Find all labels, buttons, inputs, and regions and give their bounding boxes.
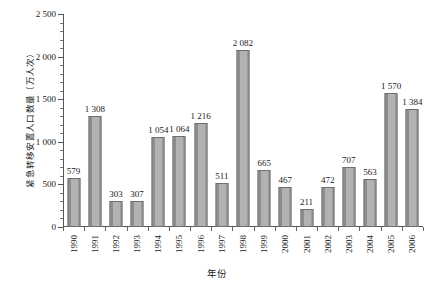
bar-slot: 511	[211, 14, 232, 227]
bar	[300, 209, 313, 227]
x-tick-label: 2000	[280, 235, 290, 253]
x-label-slot: 2002	[317, 228, 338, 264]
x-label-slot: 1990	[63, 228, 84, 264]
bar	[67, 178, 80, 227]
x-tick-label: 1993	[132, 235, 142, 253]
bar-value-label: 665	[257, 158, 271, 168]
x-tick-label: 2002	[323, 235, 333, 253]
y-axis-title: 紧急转移安置人口数量（万人次）	[23, 13, 35, 223]
bar	[364, 179, 377, 227]
bar-slot: 1 384	[402, 14, 423, 227]
bar-value-label: 1 054	[148, 125, 168, 135]
x-label-slot: 2004	[359, 228, 380, 264]
bar-value-label: 1 064	[169, 124, 189, 134]
x-label-slot: 1991	[84, 228, 105, 264]
x-label-slot: 1992	[105, 228, 126, 264]
bar-value-label: 1 216	[191, 111, 211, 121]
x-label-slot: 1995	[169, 228, 190, 264]
x-label-slot: 2001	[296, 228, 317, 264]
x-tick-label: 1994	[153, 235, 163, 253]
bar-value-label: 1 384	[402, 97, 422, 107]
bar	[173, 136, 186, 227]
bar	[215, 183, 228, 227]
x-tick-label: 2004	[365, 235, 375, 253]
bar	[342, 167, 355, 227]
x-label-slot: 2005	[381, 228, 402, 264]
y-tick-label: 1 500	[36, 94, 56, 104]
plot-area: 05001 0001 5002 0002 500 5791 3083033071…	[63, 14, 423, 227]
bar-slot: 707	[338, 14, 359, 227]
bar-slot: 579	[63, 14, 84, 227]
bar-slot: 467	[275, 14, 296, 227]
bar	[321, 187, 334, 227]
x-tick-label: 1997	[217, 235, 227, 253]
bar-value-label: 303	[109, 189, 123, 199]
x-tick-label: 2003	[344, 235, 354, 253]
y-tick-label: 2 000	[36, 52, 56, 62]
bar-value-label: 467	[279, 175, 293, 185]
bar	[88, 116, 101, 227]
x-label-slot: 1999	[254, 228, 275, 264]
bar-value-label: 2 082	[233, 38, 253, 48]
y-tick-label: 500	[43, 179, 57, 189]
bar-value-label: 211	[300, 197, 313, 207]
bar-slot: 563	[359, 14, 380, 227]
bar-slot: 1 570	[381, 14, 402, 227]
bar-slot: 1 064	[169, 14, 190, 227]
bar-slot: 1 216	[190, 14, 211, 227]
bar	[385, 93, 398, 227]
bar	[109, 201, 122, 227]
bar	[194, 123, 207, 227]
bar-value-label: 472	[321, 175, 335, 185]
y-tick-label: 0	[52, 222, 57, 232]
x-label-slot: 1996	[190, 228, 211, 264]
bar-value-label: 579	[67, 166, 81, 176]
bar	[279, 187, 292, 227]
bar-chart: 紧急转移安置人口数量（万人次） 05001 0001 5002 0002 500…	[0, 0, 433, 288]
bar-slot: 307	[127, 14, 148, 227]
x-label-slot: 1994	[148, 228, 169, 264]
x-label-slot: 2006	[402, 228, 423, 264]
x-label-slot: 1998	[232, 228, 253, 264]
bar	[131, 201, 144, 227]
bar-value-label: 1 308	[85, 104, 105, 114]
x-label-slot: 2003	[338, 228, 359, 264]
x-tick-label: 1992	[111, 235, 121, 253]
bar-slot: 211	[296, 14, 317, 227]
bar-value-label: 307	[130, 189, 144, 199]
x-label-slot: 1997	[211, 228, 232, 264]
x-tick-label: 2001	[302, 235, 312, 253]
x-tick-label: 2006	[407, 235, 417, 253]
x-label-slot: 1993	[127, 228, 148, 264]
bar	[152, 137, 165, 227]
bar-slot: 1 054	[148, 14, 169, 227]
bar	[236, 50, 249, 227]
bar-slot: 472	[317, 14, 338, 227]
y-tick-label: 1 000	[36, 137, 56, 147]
x-tick-label: 2005	[386, 235, 396, 253]
x-tick-label: 1990	[69, 235, 79, 253]
bar-slot: 1 308	[84, 14, 105, 227]
x-tick-label: 1998	[238, 235, 248, 253]
bar-value-label: 511	[215, 171, 228, 181]
bar-slot: 2 082	[232, 14, 253, 227]
bar-slot: 303	[105, 14, 126, 227]
bar-slot: 665	[254, 14, 275, 227]
x-tick-label: 1991	[90, 235, 100, 253]
bar	[406, 109, 419, 227]
x-label-slot: 2000	[275, 228, 296, 264]
y-tick-label: 2 500	[36, 9, 56, 19]
x-tick-mark	[423, 227, 424, 231]
bar	[258, 170, 271, 227]
bar-value-label: 707	[342, 155, 356, 165]
bar-value-label: 1 570	[381, 81, 401, 91]
x-axis-tick-labels: 1990199119921993199419951996199719981999…	[63, 228, 423, 264]
bar-value-label: 563	[363, 167, 377, 177]
x-tick-label: 1999	[259, 235, 269, 253]
x-tick-label: 1995	[174, 235, 184, 253]
x-axis-title: 年份	[0, 266, 433, 280]
x-tick-label: 1996	[196, 235, 206, 253]
